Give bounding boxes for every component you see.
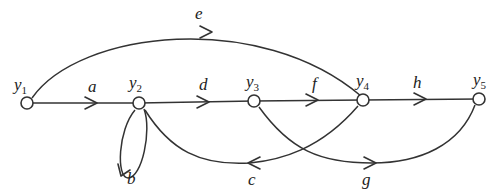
node-y5 (473, 93, 485, 105)
gain-label-c: c (248, 170, 256, 189)
edge-f (254, 100, 363, 101)
node-y2 (133, 97, 145, 109)
edge-c (145, 106, 358, 163)
gain-label-f: f (312, 74, 319, 93)
gain-label-g: g (362, 170, 371, 189)
node-label-y5: y5 (471, 70, 487, 91)
node-label-y1: y1 (12, 75, 27, 96)
edge-b-self-loop (120, 109, 146, 178)
node-label-y2: y2 (127, 73, 142, 94)
gain-label-d: d (199, 75, 208, 94)
signal-flow-graph: y1 y2 y3 y4 y5 a b c d e f g h (0, 0, 497, 195)
gain-label-h: h (413, 73, 422, 92)
edge-d (139, 101, 254, 103)
node-label-y4: y4 (354, 71, 370, 92)
arrow-e-icon (200, 26, 212, 38)
gain-label-b: b (127, 169, 136, 188)
node-y1 (21, 97, 33, 109)
node-y3 (248, 95, 260, 107)
node-y4 (357, 94, 369, 106)
gain-label-a: a (88, 77, 97, 96)
gain-label-e: e (195, 4, 203, 23)
edge-h (363, 99, 479, 100)
node-label-y3: y3 (244, 72, 260, 93)
